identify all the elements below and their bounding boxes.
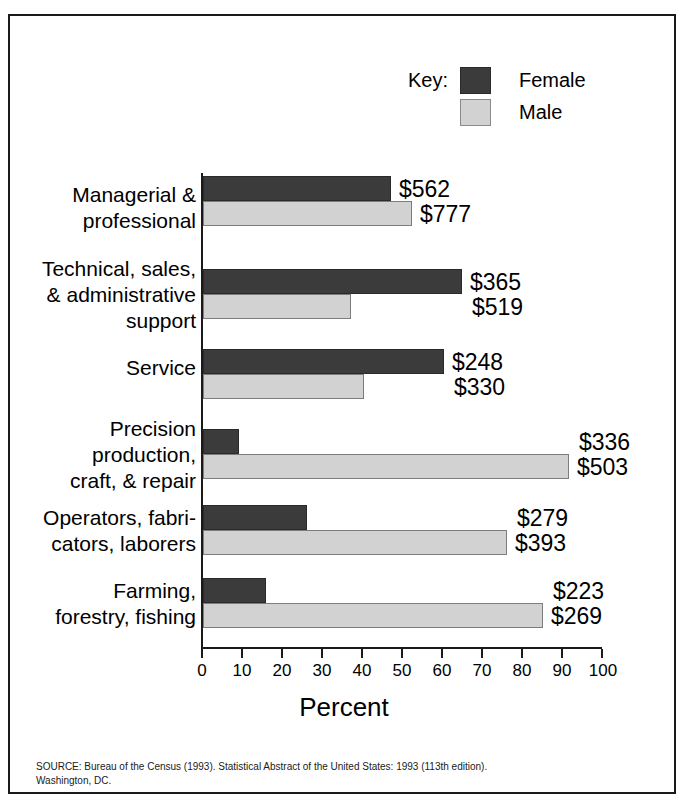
bar-female-managerial: $562 [203, 176, 391, 201]
plot-area: Managerial & professional $562 $777 Tech… [10, 16, 678, 796]
x-tick-0 [201, 649, 203, 658]
chart-frame: Key: Female Male Managerial & profession… [8, 14, 676, 794]
value-label-male-farming: $269 [551, 602, 602, 629]
x-tick-label-40: 40 [342, 661, 382, 681]
bar-female-farming: $223 [203, 578, 266, 603]
x-tick-10 [241, 649, 243, 658]
bars-service: $248 $330 [203, 349, 444, 399]
value-label-male-technical: $519 [472, 293, 523, 320]
bars-managerial: $562 $777 [203, 176, 412, 226]
value-label-female-service: $248 [452, 348, 503, 375]
category-label-precision: Precision production, craft, & repair [0, 416, 196, 494]
bar-female-technical: $365 [203, 269, 462, 294]
x-tick-label-50: 50 [382, 661, 422, 681]
x-tick-60 [441, 649, 443, 658]
bar-male-service: $330 [203, 374, 364, 399]
x-tick-40 [361, 649, 363, 658]
source-line-1: SOURCE: Bureau of the Census (1993). Sta… [36, 760, 636, 774]
value-label-male-precision: $503 [577, 453, 628, 480]
bar-female-service: $248 [203, 349, 444, 374]
x-tick-50 [401, 649, 403, 658]
x-tick-label-90: 90 [542, 661, 582, 681]
value-label-female-technical: $365 [470, 268, 521, 295]
category-label-farming: Farming, forestry, fishing [0, 578, 196, 630]
x-tick-label-100: 100 [583, 661, 623, 681]
value-label-female-farming: $223 [553, 577, 604, 604]
x-tick-label-80: 80 [502, 661, 542, 681]
x-tick-label-20: 20 [262, 661, 302, 681]
x-tick-30 [321, 649, 323, 658]
value-label-male-managerial: $777 [420, 200, 471, 227]
bar-male-farming: $269 [203, 603, 543, 628]
category-label-technical: Technical, sales, & administrative suppo… [0, 256, 196, 334]
x-tick-label-30: 30 [302, 661, 342, 681]
x-tick-label-60: 60 [422, 661, 462, 681]
value-label-male-service: $330 [454, 373, 505, 400]
category-label-service: Service [0, 355, 196, 381]
x-tick-label-70: 70 [462, 661, 502, 681]
bars-operators: $279 $393 [203, 505, 507, 555]
source-note: SOURCE: Bureau of the Census (1993). Sta… [36, 760, 636, 788]
bar-male-technical: $519 [203, 294, 351, 319]
x-tick-80 [521, 649, 523, 658]
x-tick-90 [561, 649, 563, 658]
bars-farming: $223 $269 [203, 578, 543, 628]
bar-female-operators: $279 [203, 505, 307, 530]
value-label-male-operators: $393 [515, 529, 566, 556]
x-tick-label-0: 0 [182, 661, 222, 681]
value-label-female-operators: $279 [517, 504, 568, 531]
bar-male-managerial: $777 [203, 201, 412, 226]
source-line-2: Washington, DC. [36, 774, 636, 788]
bar-male-precision: $503 [203, 454, 569, 479]
x-tick-100 [601, 649, 603, 658]
bars-technical: $365 $519 [203, 269, 462, 319]
x-tick-20 [281, 649, 283, 658]
category-label-managerial: Managerial & professional [0, 182, 196, 234]
x-tick-label-10: 10 [222, 661, 262, 681]
category-label-operators: Operators, fabri- cators, laborers [0, 505, 196, 557]
y-axis-line [201, 173, 203, 648]
bar-male-operators: $393 [203, 530, 507, 555]
bars-precision: $336 $503 [203, 429, 569, 479]
x-axis-title: Percent [10, 692, 678, 723]
x-tick-70 [481, 649, 483, 658]
value-label-female-managerial: $562 [399, 175, 450, 202]
value-label-female-precision: $336 [579, 428, 630, 455]
bar-female-precision: $336 [203, 429, 239, 454]
